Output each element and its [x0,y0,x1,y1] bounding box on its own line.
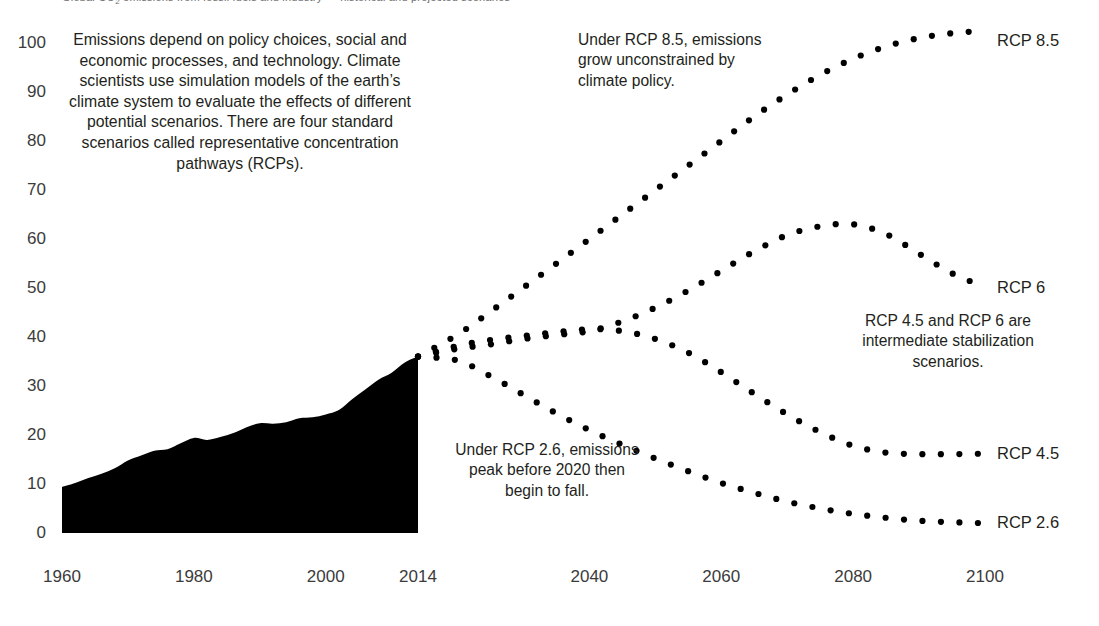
x-axis-tick-1960: 1960 [43,568,81,585]
x-axis-tick-2060: 2060 [702,568,740,585]
annotation-rcp26: Under RCP 2.6, emissions peak before 202… [452,440,642,501]
y-axis-tick-40: 40 [0,328,46,345]
y-axis-tick-60: 60 [0,230,46,247]
x-axis-tick-2080: 2080 [834,568,872,585]
x-axis-tick-2000: 2000 [307,568,345,585]
y-axis-tick-100: 100 [0,34,46,51]
y-axis-tick-80: 80 [0,132,46,149]
chart-canvas: Global CO2 emissions from fossil fuels a… [0,0,1099,626]
x-axis-tick-2040: 2040 [571,568,609,585]
y-axis-tick-0: 0 [0,524,46,541]
y-axis-tick-10: 10 [0,475,46,492]
annotation-rcp85: Under RCP 8.5, emissions grow unconstrai… [578,30,768,91]
annotation-rcp45-rcp6: RCP 4.5 and RCP 6 are intermediate stabi… [843,311,1053,372]
series-label-rcp45: RCP 4.5 [997,445,1059,462]
y-axis-tick-90: 90 [0,83,46,100]
y-axis-tick-70: 70 [0,181,46,198]
x-axis-tick-1980: 1980 [175,568,213,585]
series-label-rcp26: RCP 2.6 [997,514,1059,531]
y-axis-tick-50: 50 [0,279,46,296]
annotation-intro: Emissions depend on policy choices, soci… [64,30,416,174]
series-label-rcp85: RCP 8.5 [997,32,1059,49]
historical-emissions-area [62,357,418,533]
series-label-rcp6: RCP 6 [997,279,1045,296]
y-axis-tick-30: 30 [0,377,46,394]
x-axis-tick-2100: 2100 [966,568,1004,585]
x-axis-tick-2014: 2014 [399,568,437,585]
y-axis-tick-20: 20 [0,426,46,443]
